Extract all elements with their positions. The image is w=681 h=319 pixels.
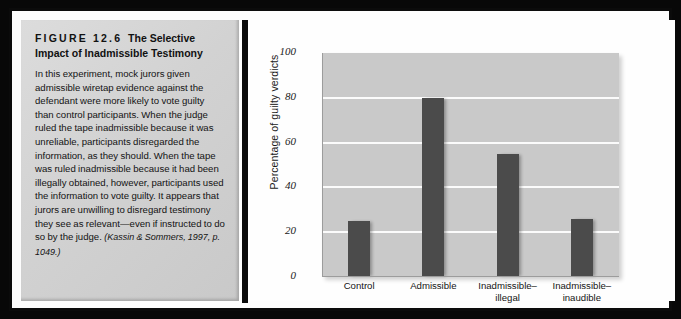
bar [348,221,370,277]
y-tick-label: 20 [256,224,296,236]
figure-caption-panel: FIGURE 12.6 The Selective Impact of Inad… [21,20,239,301]
figure-number: FIGURE 12.6 [35,32,122,44]
y-tick-label: 40 [256,179,296,191]
figure-caption-body: In this experiment, mock jurors given ad… [35,68,225,242]
y-tick-label: 0 [256,269,296,281]
plot-area [322,53,619,277]
figure-outer-frame: FIGURE 12.6 The Selective Impact of Inad… [0,0,681,319]
y-tick-label: 80 [256,90,296,102]
bar [497,154,519,277]
y-tick-label: 100 [256,45,296,57]
figure-caption-text: In this experiment, mock jurors given ad… [35,67,225,259]
x-axis-labels: ControlAdmissibleInadmissible–illegalIna… [322,280,619,319]
x-tick-label: Inadmissible–inaudible [536,280,628,303]
x-tick-label-line: inaudible [536,292,628,304]
bar [422,98,444,277]
figure-heading: FIGURE 12.6 The Selective Impact of Inad… [35,31,225,60]
bar [571,219,593,277]
figure-page: FIGURE 12.6 The Selective Impact of Inad… [9,8,672,311]
y-tick-label: 60 [256,135,296,147]
x-tick-label-line: Inadmissible– [536,280,628,292]
bar-series [322,53,619,277]
chart-panel: Percentage of guilty verdicts 0204060801… [248,20,675,301]
